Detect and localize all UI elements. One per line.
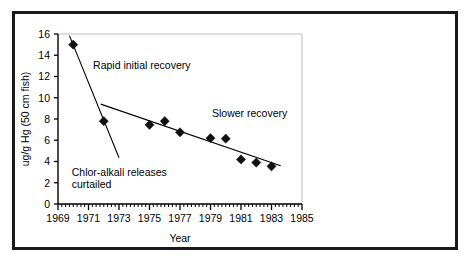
trend-lines-group <box>69 36 280 166</box>
y-axis-tick-labels: 0246810121416 <box>38 28 50 210</box>
y-axis-title: ug/g Hg (50 cm fish) <box>19 72 31 167</box>
chlor-alkali-line-1: Chlor-alkali releases <box>72 166 167 178</box>
x-tick-label: 1979 <box>199 212 223 224</box>
rapid-initial-recovery-trend <box>69 36 119 158</box>
y-tick-label: 8 <box>44 113 50 125</box>
mercury-trend-chart: 0246810121416 19691971197319751977197919… <box>15 14 455 247</box>
x-axis-major-ticks <box>58 204 302 210</box>
data-point-marker <box>99 117 108 126</box>
y-tick-label: 2 <box>44 177 50 189</box>
y-tick-label: 4 <box>44 155 50 167</box>
x-tick-label: 1985 <box>290 212 314 224</box>
y-tick-label: 16 <box>38 28 50 40</box>
data-point-marker <box>69 40 78 49</box>
y-tick-label: 6 <box>44 134 50 146</box>
x-tick-label: 1977 <box>168 212 192 224</box>
x-tick-label: 1971 <box>77 212 101 224</box>
data-point-marker <box>175 128 184 137</box>
rapid-initial-recovery: Rapid initial recovery <box>93 59 191 71</box>
chlor-alkali-line-2: curtailed <box>72 178 112 190</box>
x-tick-label: 1975 <box>138 212 162 224</box>
x-tick-label: 1981 <box>229 212 253 224</box>
data-point-marker <box>160 117 169 126</box>
x-axis-title: Year <box>169 232 191 244</box>
y-tick-label: 12 <box>38 70 50 82</box>
data-point-marker <box>236 155 245 164</box>
slower-recovery: Slower recovery <box>212 107 288 119</box>
x-tick-label: 1983 <box>260 212 284 224</box>
figure-frame: 0246810121416 19691971197319751977197919… <box>12 11 458 250</box>
x-tick-label: 1973 <box>107 212 131 224</box>
data-point-marker <box>221 134 230 143</box>
y-tick-label: 0 <box>44 198 50 210</box>
data-point-marker <box>267 162 276 171</box>
y-tick-label: 10 <box>38 92 50 104</box>
x-axis-tick-labels: 196919711973197519771979198119831985 <box>46 212 314 224</box>
data-point-marker <box>206 134 215 143</box>
x-tick-label: 1969 <box>46 212 70 224</box>
data-point-marker <box>252 158 261 167</box>
y-tick-label: 14 <box>38 49 50 61</box>
